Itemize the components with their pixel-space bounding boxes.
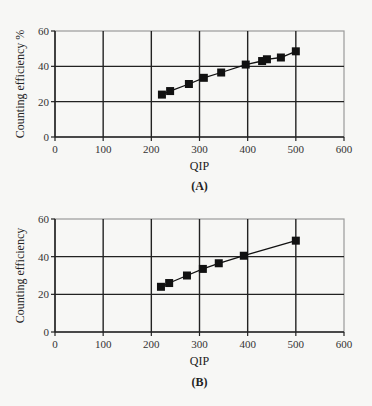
x-tick-label: 100 <box>95 338 112 350</box>
y-tick-label: 40 <box>38 251 50 263</box>
y-axis-label: Counting efficiency <box>13 228 27 323</box>
x-axis-label: QIP <box>190 354 210 368</box>
data-point-square-marker <box>165 279 173 287</box>
data-point-square-marker <box>292 237 300 245</box>
y-tick-label: 0 <box>44 326 50 338</box>
x-tick-label: 500 <box>288 338 305 350</box>
data-point-square-marker <box>199 265 207 273</box>
x-tick-label: 300 <box>191 338 208 350</box>
data-point-square-marker <box>240 252 248 260</box>
y-tick-label: 60 <box>38 213 50 225</box>
y-tick-label: 20 <box>38 288 50 300</box>
data-point-square-marker <box>183 272 191 280</box>
chart-b-svg: 01002003004005006000204060QIPCounting ef… <box>0 0 372 406</box>
panel-caption: (B) <box>192 375 208 389</box>
data-point-square-marker <box>215 259 223 267</box>
x-tick-label: 200 <box>143 338 160 350</box>
x-tick-label: 600 <box>336 338 353 350</box>
series-line <box>161 241 296 287</box>
chart-b: 01002003004005006000204060QIPCounting ef… <box>0 0 372 406</box>
data-point-square-marker <box>157 283 165 291</box>
x-tick-label: 0 <box>52 338 58 350</box>
x-tick-label: 400 <box>239 338 256 350</box>
